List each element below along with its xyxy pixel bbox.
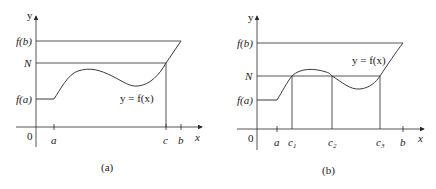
- x-label-b-a: b: [178, 134, 184, 146]
- x-label-a-b: a: [274, 136, 280, 148]
- y-axis-label-a: y: [27, 9, 33, 21]
- x-label-b-b: b: [400, 136, 406, 148]
- fa-label-b: f(a): [237, 94, 253, 107]
- caption-a: (a): [101, 161, 114, 174]
- origin-label-b: 0: [248, 132, 254, 144]
- x-label-c2-b: c2: [328, 136, 337, 150]
- curve-f-a: [36, 41, 181, 99]
- curve-f-b: [257, 43, 403, 100]
- x-axis-label-b: x: [417, 132, 423, 144]
- n-label-b: N: [244, 70, 253, 82]
- curve-label-b: y = f(x): [352, 54, 386, 67]
- x-label-c-a: c: [163, 134, 168, 146]
- x-label-c3-b: c3: [376, 136, 385, 150]
- y-axis-label-b: y: [248, 11, 254, 23]
- origin-label-a: 0: [27, 130, 33, 142]
- fb-label-b: f(b): [237, 37, 253, 50]
- n-label-a: N: [23, 57, 32, 69]
- x-axis-label-a: x: [194, 131, 200, 143]
- x-label-c1-b: c1: [288, 136, 296, 150]
- fb-label-a: f(b): [16, 35, 32, 48]
- panel-b: y f(b) N f(a) 0 a c1 c2 c3 b x y = f(x) …: [237, 11, 424, 177]
- curve-label-a: y = f(x): [120, 92, 154, 105]
- x-label-a-a: a: [51, 134, 57, 146]
- caption-b: (b): [322, 164, 335, 177]
- panel-a: y f(b) N f(a) 0 a c b x y = f(x) (a): [16, 9, 202, 174]
- fa-label-a: f(a): [16, 93, 32, 106]
- ivt-figure: y f(b) N f(a) 0 a c b x y = f(x) (a) y f…: [0, 0, 436, 189]
